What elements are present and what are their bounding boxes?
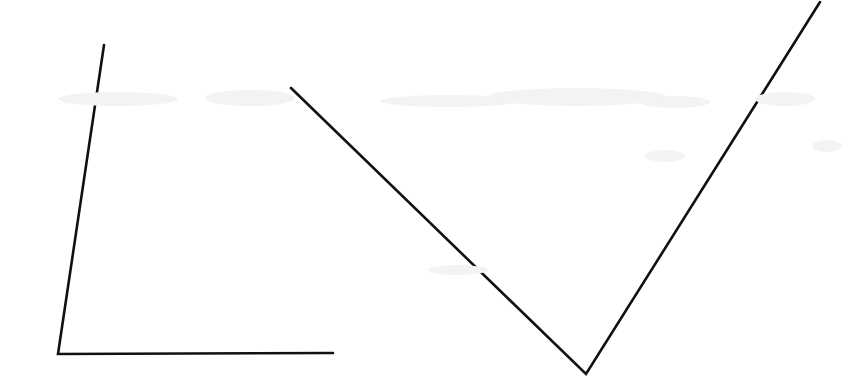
polyline-right-angle-v — [291, 2, 820, 374]
scan-page — [0, 0, 858, 389]
stroke-group — [58, 2, 820, 374]
polyline-left-angle — [58, 45, 333, 354]
angle-figure-svg — [0, 0, 858, 389]
